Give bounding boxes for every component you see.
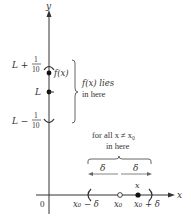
limit-point: L [34,87,54,97]
delta-left-label: δ [100,163,105,173]
lower-bound-den: 10 [32,121,40,130]
upper-bound-num: 1 [34,55,38,64]
y-axis: y [45,1,52,214]
delta-right-arrow-icon [147,172,152,176]
x-axis-label: x [177,190,182,200]
x-axis-arrow-icon [168,193,175,198]
delta-left-arrow-icon [88,172,93,176]
lower-bound-base: L − [11,116,28,126]
x0-plus-delta-label: x₀ + δ [134,199,160,209]
fx-point: f(x) [47,68,69,78]
upper-bound-den: 10 [32,65,40,74]
x0-open-circle-icon [118,193,123,198]
y-range-brace: f(x) lies in here [72,60,115,123]
x-axis: x 0 [36,190,182,209]
delta-right-label: δ [133,163,138,173]
vertical-brace-icon [72,60,78,123]
horizontal-brace-icon [88,156,151,164]
x0-minus-delta-label: x₀ − δ [73,199,99,209]
fx-label: f(x) [53,68,69,78]
y-brace-text-line2: in here [82,89,106,99]
lower-bound-mark: L − 1 10 [11,111,54,130]
x-range-brace: for all x ≠ x₀ in here [88,130,151,164]
y-axis-label: y [45,1,52,11]
limit-diagram: y x 0 L + 1 10 f(x) L L − 1 10 f(x) lies [0,0,191,216]
x-brace-text-line2: in here [106,141,130,151]
y-brace-text-line1: f(x) lies [81,78,115,88]
upper-bound-base: L + [11,60,28,70]
lower-bound-num: 1 [34,111,38,120]
x-brace-text-line1: for all x ≠ x₀ [92,130,135,140]
delta-arrows: δ δ [88,163,152,176]
fx-dot-icon [47,71,52,76]
x-point-label: x [135,181,140,190]
L-label: L [34,87,41,97]
x-dot-icon [135,192,140,197]
y-axis-arrow-icon [47,10,52,17]
x0-label: x₀ [114,199,123,209]
origin-label: 0 [40,199,45,209]
